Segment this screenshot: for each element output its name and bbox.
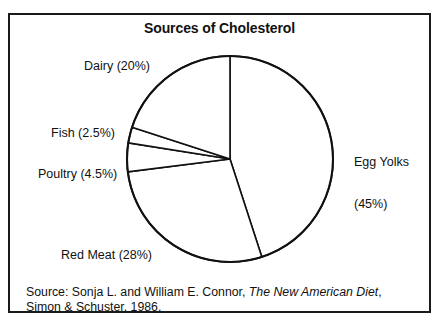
slice-label-egg-yolks-line1: Egg Yolks [354, 155, 409, 169]
source-note: Source: Sonja L. and William E. Connor, … [26, 285, 418, 315]
source-book-title: The New American Diet [249, 285, 378, 299]
slice-label-egg-yolks-line2: (45%) [354, 197, 409, 211]
slice-label-egg-yolks: Egg Yolks (45%) [354, 127, 409, 239]
slice-label-poultry: Poultry (4.5%) [38, 167, 117, 181]
source-prefix: Source: Sonja L. and William E. Connor, [26, 285, 249, 299]
slice-label-dairy: Dairy (20%) [84, 59, 150, 73]
slice-label-red-meat: Red Meat (28%) [61, 248, 152, 262]
chart-figure: Sources of Cholesterol Dairy (20%) Fish … [8, 13, 431, 313]
slice-label-fish: Fish (2.5%) [51, 126, 115, 140]
